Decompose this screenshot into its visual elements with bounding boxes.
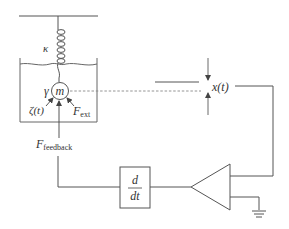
- feedback-oscillator-diagram: κ m γ ζ(t) Fext Ffeedback x(t) d dt: [0, 0, 289, 229]
- derivative-denominator: dt: [130, 189, 140, 203]
- feedback-force-label: Ffeedback: [35, 137, 72, 152]
- derivative-numerator: d: [132, 173, 139, 187]
- noise-force-label: ζ(t): [29, 104, 44, 117]
- spring-constant-label: κ: [43, 42, 49, 54]
- ground-icon: [252, 211, 266, 217]
- ground-wire: [230, 197, 259, 210]
- damping-label: γ: [44, 84, 49, 98]
- amplifier-icon: [191, 164, 230, 210]
- external-force-label: Fext: [72, 104, 91, 119]
- displacement-label: x(t): [211, 80, 229, 94]
- mass-label: m: [56, 84, 65, 98]
- fluid-surface: [20, 63, 97, 65]
- signal-wire-detector: [230, 86, 273, 176]
- spring-icon: [57, 16, 65, 82]
- feedback-wire: [58, 156, 120, 187]
- noise-force-arrow: [46, 98, 53, 106]
